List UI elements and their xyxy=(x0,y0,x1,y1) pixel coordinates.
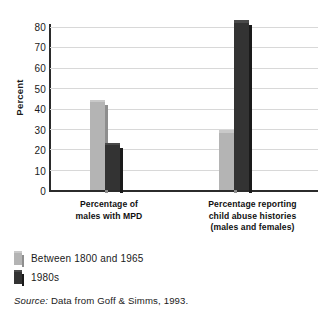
bar-group1-series0 xyxy=(219,133,234,190)
legend-label-0: Between 1800 and 1965 xyxy=(31,253,144,264)
gridline-80 xyxy=(50,27,318,28)
category-0-line-1: males with MPD xyxy=(45,211,173,223)
bar-group0-series0 xyxy=(90,102,105,190)
legend-label-1: 1980s xyxy=(31,272,59,283)
y-tick-0: 0 xyxy=(18,187,46,197)
y-tick-70: 70 xyxy=(18,43,46,53)
y-tick-10: 10 xyxy=(18,167,46,177)
gridline-60 xyxy=(50,68,318,69)
y-tick-20: 20 xyxy=(18,146,46,156)
bar-front-face xyxy=(234,23,249,190)
legend-swatch-dark-icon xyxy=(14,272,22,284)
x-axis-line xyxy=(49,190,318,192)
bar-side-face xyxy=(249,25,252,192)
category-1-line-0: Percentage reporting xyxy=(180,199,325,211)
y-axis-title: Percent xyxy=(14,68,25,128)
y-tick-80: 80 xyxy=(18,23,46,33)
category-1-line-2: (males and females) xyxy=(180,222,325,234)
source-text: Data from Goff & Simms, 1993. xyxy=(48,295,188,306)
bar-group0-series1 xyxy=(105,145,120,190)
legend-item-0: Between 1800 and 1965 xyxy=(14,249,264,268)
bar-group1-series1 xyxy=(234,23,249,190)
plot-area xyxy=(50,27,318,190)
gridline-50 xyxy=(50,88,318,89)
chart-legend: Between 1800 and 1965 1980s xyxy=(14,249,264,287)
bar-front-face xyxy=(105,145,120,190)
bar-chart-figure: 80 70 60 50 40 30 20 10 0 Percent xyxy=(0,0,330,321)
source-note: Source: Data from Goff & Simms, 1993. xyxy=(14,295,188,306)
y-tick-30: 30 xyxy=(18,126,46,136)
bar-front-face xyxy=(90,102,105,190)
x-axis-category-label-1: Percentage reporting child abuse histori… xyxy=(180,199,325,234)
category-1-line-1: child abuse histories xyxy=(180,211,325,223)
bar-side-face xyxy=(120,148,123,193)
category-0-line-0: Percentage of xyxy=(45,199,173,211)
legend-swatch-light-icon xyxy=(14,253,22,265)
x-axis-category-label-0: Percentage of males with MPD xyxy=(45,199,173,222)
gridline-70 xyxy=(50,47,318,48)
legend-item-1: 1980s xyxy=(14,268,264,287)
source-prefix: Source: xyxy=(14,295,48,306)
bar-front-face xyxy=(219,133,234,190)
